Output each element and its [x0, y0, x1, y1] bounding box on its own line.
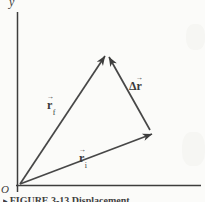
label-r-final-subscript: f	[53, 108, 56, 117]
vector-arrow-accent: →	[47, 93, 53, 101]
vector-delta-r	[109, 57, 150, 130]
label-r-initial-subscript: i	[85, 161, 87, 170]
vector-arrow-accent: →	[79, 146, 85, 154]
figure-caption: ▶FIGURE 3-13 Displacement	[3, 195, 203, 202]
label-r-initial: →ri	[79, 152, 87, 167]
figure-canvas: y O →rf Δ→r →ri ▶FIGURE 3-13 Displacemen…	[0, 0, 205, 202]
vector-r-final	[20, 56, 105, 184]
label-r-final: →rf	[47, 99, 55, 114]
vector-diagram	[0, 0, 205, 202]
y-axis-label: y	[9, 0, 14, 8]
vector-arrow-accent: →	[136, 74, 142, 82]
caption-triangle-icon: ▶	[3, 196, 8, 202]
figure-caption-text: FIGURE 3-13 Displacement	[10, 195, 130, 202]
origin-label: O	[1, 184, 9, 195]
label-delta-r: Δ→r	[129, 80, 142, 92]
